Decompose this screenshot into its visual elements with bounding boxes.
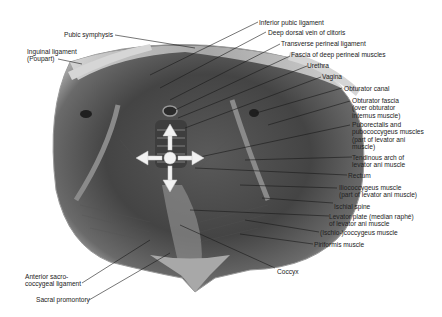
urethra-shape [163, 106, 177, 116]
obturator-canal-left [80, 110, 92, 118]
label-sacral-promontory: Sacral promontory [36, 296, 90, 303]
label-ischiococcygeus: (Ischio-)coccygeus muscle [320, 229, 398, 236]
arrows-center-dot [164, 152, 176, 164]
label-coccyx: Coccyx [277, 268, 299, 275]
label-pubic-symphysis: Pubic symphysis [64, 31, 113, 38]
label-anterior-sacrococcygeal: Anterior sacro- coccygeal ligament [25, 273, 81, 288]
label-puborectalis: Puborectalis and pubococcygeus muscles (… [352, 121, 424, 151]
label-transverse-perineal-ligament: Transverse perineal ligament [281, 40, 366, 47]
label-vagina: Vagina [322, 73, 342, 80]
label-fascia-deep-perineal: Fascia of deep perineal muscles [291, 51, 386, 58]
label-inguinal-ligament: Inguinal ligament (Poupart) [27, 48, 77, 63]
label-deep-dorsal-vein: Deep dorsal vein of clitoris [268, 29, 345, 36]
label-ischial-spine: Ischial spine [334, 203, 370, 210]
label-urethra: Urethra [307, 62, 329, 69]
obturator-canal-right [249, 109, 259, 117]
label-inferior-pubic-ligament: Inferior pubic ligament [259, 19, 324, 26]
label-tendinous-arch: Tendinous arch of levator ani muscle [352, 154, 405, 169]
pelvic-floor-diagram: Pubic symphysis Inguinal ligament (Poupa… [0, 0, 442, 317]
label-levator-plate: Levator plate (median raphé) of levator … [329, 213, 414, 228]
label-obturator-canal: Obturator canal [344, 85, 389, 92]
label-rectum: Rectum [348, 172, 371, 179]
label-piriformis: Piriformis muscle [314, 241, 364, 248]
label-iliococcygeus: Iliococcygeus muscle (part of levator an… [339, 184, 417, 199]
label-obturator-fascia: Obturator fascia (over obturator internu… [352, 97, 400, 119]
pelvic-bowl [53, 44, 364, 292]
